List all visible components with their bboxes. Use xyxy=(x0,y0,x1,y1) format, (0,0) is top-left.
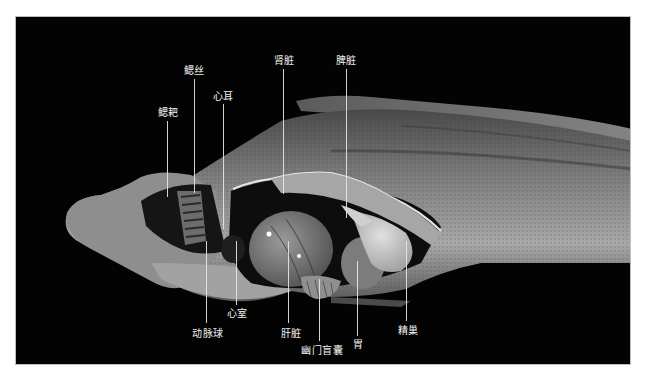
label-atrium: 心耳 xyxy=(213,91,234,102)
leader-line-gill-filaments xyxy=(194,79,195,193)
label-pyloric-caeca: 幽门盲囊 xyxy=(301,345,343,356)
label-gill-rakers: 鳃耙 xyxy=(158,107,179,118)
label-gill-filaments: 鳃丝 xyxy=(184,65,205,76)
label-kidney: 肾脏 xyxy=(274,55,295,66)
leader-line-pyloric-caeca xyxy=(319,279,320,341)
label-ventricle: 心室 xyxy=(227,308,248,319)
leader-line-testis xyxy=(406,241,407,321)
label-testis: 精巢 xyxy=(398,325,419,336)
leader-line-spleen xyxy=(346,69,347,218)
leader-line-stomach xyxy=(357,261,358,336)
label-stomach: 胃 xyxy=(353,339,364,350)
label-spleen: 脾脏 xyxy=(336,55,357,66)
leader-line-kidney xyxy=(283,69,284,194)
heart-region xyxy=(221,235,245,263)
leader-line-bulbus-arteriosus xyxy=(206,241,207,323)
liver xyxy=(249,211,333,287)
label-bulbus-arteriosus: 动脉球 xyxy=(192,328,224,339)
leader-line-liver xyxy=(288,241,289,323)
dissection-photo: 鳃耙 鳃丝 心耳 肾脏 脾脏 动脉球 心室 肝脏 幽门盲囊 胃 精巢 xyxy=(15,16,631,365)
leader-line-atrium xyxy=(223,104,224,229)
leader-line-gill-rakers xyxy=(167,121,168,197)
fish-illustration xyxy=(16,17,631,365)
leader-line-ventricle xyxy=(236,241,237,305)
label-liver: 肝脏 xyxy=(281,328,302,339)
